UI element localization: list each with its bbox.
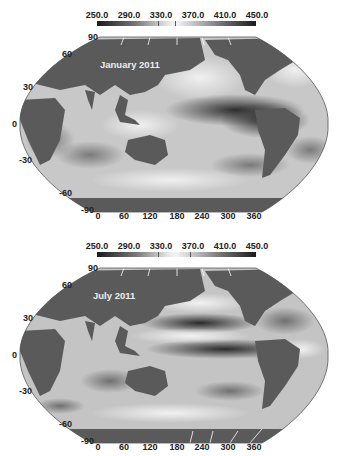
- lon-tick: 300: [220, 211, 235, 221]
- lat-tick: -90: [81, 205, 94, 215]
- lat-tick: 90: [88, 263, 98, 273]
- lat-tick: 60: [62, 280, 72, 290]
- map-title: January 2011: [100, 59, 160, 70]
- lon-tick: 60: [119, 211, 129, 221]
- lon-tick: 180: [169, 211, 184, 221]
- lon-tick: 360: [246, 211, 261, 221]
- lon-tick: 300: [220, 442, 235, 452]
- lat-tick: 90: [88, 32, 98, 42]
- lat-tick: -90: [81, 436, 94, 446]
- lon-tick: 120: [142, 442, 157, 452]
- lat-tick: 0: [12, 119, 17, 129]
- lat-tick: -30: [19, 386, 32, 396]
- lat-tick: -30: [19, 155, 32, 165]
- lat-tick: 30: [23, 82, 33, 92]
- lon-tick: 360: [246, 442, 261, 452]
- lat-tick: -60: [59, 188, 72, 198]
- lon-tick: 60: [119, 442, 129, 452]
- lat-tick: -60: [59, 419, 72, 429]
- lat-tick: 30: [23, 313, 33, 323]
- lat-tick: 0: [12, 350, 17, 360]
- map-title: July 2011: [93, 290, 135, 301]
- world-map-january: [0, 0, 342, 228]
- lon-tick: 120: [142, 211, 157, 221]
- lon-tick: 180: [169, 442, 184, 452]
- panel-january: 250.0 290.0 330.0 370.0 410.0 450.0: [0, 0, 342, 228]
- lon-tick: 0: [95, 442, 100, 452]
- lon-tick: 240: [194, 211, 209, 221]
- lon-tick: 0: [95, 211, 100, 221]
- lat-tick: 60: [62, 49, 72, 59]
- lon-tick: 240: [194, 442, 209, 452]
- world-map-july: [0, 231, 342, 456]
- panel-july: 250.0 290.0 330.0 370.0 410.0 450.0: [0, 231, 342, 456]
